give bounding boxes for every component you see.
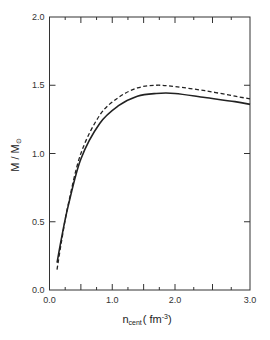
x-tick-labels: 0.01.02.03.0 [43, 295, 256, 305]
y-tick-label: 0.5 [32, 217, 45, 227]
y-tick-label: 1.0 [32, 149, 45, 159]
y-tick-label: 0.0 [32, 285, 45, 295]
x-tick-label: 1.0 [106, 295, 119, 305]
mass-vs-density-chart: 0.01.02.03.0 0.00.51.01.52.0 ncent( fm-3… [0, 0, 270, 340]
solid-curve [57, 93, 250, 263]
plot-frame [50, 17, 251, 290]
y-tick-label: 2.0 [32, 12, 45, 22]
x-tick-label: 0.0 [43, 295, 56, 305]
y-tick-labels: 0.00.51.01.52.0 [32, 12, 45, 295]
y-tick-label: 1.5 [32, 80, 45, 90]
plot-border [50, 17, 251, 290]
x-tick-label: 2.0 [169, 295, 182, 305]
dashed-curve [57, 85, 250, 269]
data-series [57, 85, 250, 269]
x-axis-label: ncent( fm-3) [122, 313, 171, 326]
axis-ticks [50, 17, 251, 290]
y-axis-label: M / M⊙ [9, 138, 22, 172]
x-tick-label: 3.0 [244, 295, 257, 305]
